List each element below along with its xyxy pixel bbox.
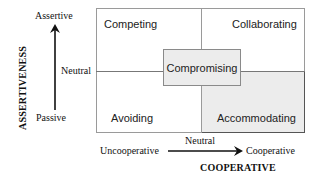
x-axis-right-label: Cooperative	[246, 145, 295, 156]
horizontal-arrow-icon	[167, 145, 243, 157]
quadrant-accommodating: Accommodating	[217, 112, 296, 124]
x-axis-left-label: Uncooperative	[100, 145, 159, 156]
y-axis-bottom-label: Passive	[36, 112, 66, 123]
x-axis-title: COOPERATIVE	[200, 162, 276, 173]
quadrant-compromising: Compromising	[167, 62, 238, 74]
compromising-box: Compromising	[163, 49, 241, 86]
y-axis-title: ASSERTIVENESS	[17, 46, 28, 130]
vertical-arrow-icon	[48, 24, 62, 112]
quadrant-collaborating: Collaborating	[232, 18, 297, 30]
quadrant-avoiding: Avoiding	[111, 112, 153, 124]
quadrant-competing: Competing	[104, 18, 157, 30]
y-axis-neutral-label: Neutral	[61, 65, 91, 76]
y-axis-top-label: Assertive	[35, 10, 73, 21]
